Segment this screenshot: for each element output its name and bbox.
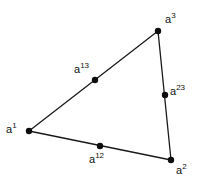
node-label-a1: a1 <box>6 122 17 135</box>
node-dot-a2 <box>168 157 174 163</box>
node-label-superscript-a2: 2 <box>182 162 186 171</box>
node-label-a2: a2 <box>176 163 187 176</box>
triangle-diagram: a1a2a3a12a13a23 <box>0 0 205 188</box>
node-dot-a13 <box>92 77 98 83</box>
node-label-superscript-a1: 1 <box>12 121 16 130</box>
node-label-a13: a13 <box>74 62 89 75</box>
node-label-a12: a12 <box>89 152 104 165</box>
nodes-group <box>26 28 174 163</box>
node-dot-a23 <box>162 92 168 98</box>
node-label-superscript-a3: 3 <box>171 11 175 20</box>
edges-group <box>29 31 171 160</box>
node-label-superscript-a13: 13 <box>80 61 89 70</box>
node-dot-a3 <box>155 28 161 34</box>
node-label-superscript-a12: 12 <box>95 151 104 160</box>
node-label-a3: a3 <box>165 12 176 25</box>
node-dot-a12 <box>97 143 103 149</box>
node-label-a23: a23 <box>170 84 185 97</box>
node-dot-a1 <box>26 128 32 134</box>
node-label-superscript-a23: 23 <box>176 83 185 92</box>
